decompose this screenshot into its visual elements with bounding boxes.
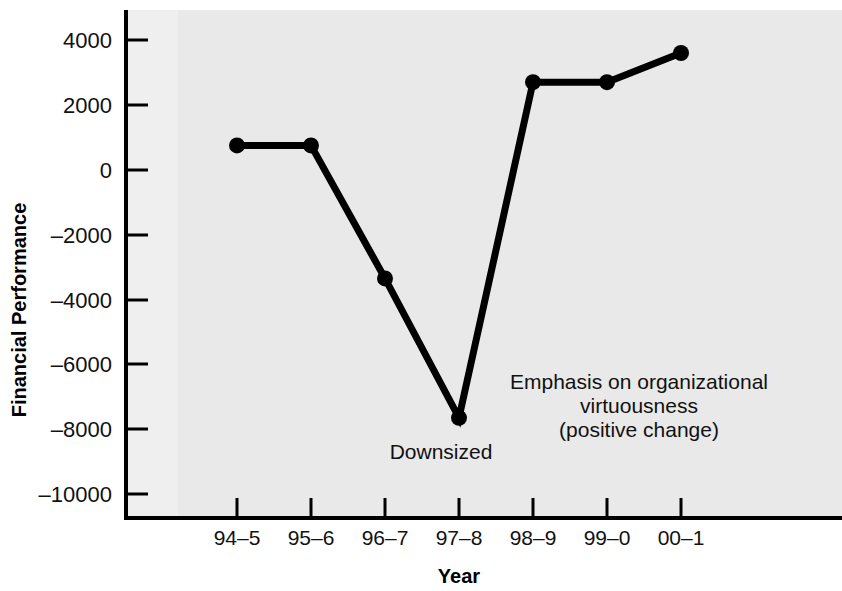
data-point-95–6 [303,137,319,153]
data-point-00–1 [673,45,689,61]
data-point-97–8 [451,410,467,426]
annotation-downsized: Downsized [390,440,493,463]
y-tick-label-0: 0 [100,158,112,183]
x-tick-label-5: 99–0 [584,526,631,549]
y-tick-label-minus2000: –2000 [51,223,112,248]
financial-performance-line-chart: 4000 2000 0 –2000 –4000 –6000 –8000 –100… [0,0,842,591]
x-tick-label-3: 97–8 [436,526,483,549]
chart-figure: 4000 2000 0 –2000 –4000 –6000 –8000 –100… [0,0,842,591]
y-tick-label-4000: 4000 [63,28,112,53]
x-tick-label-1: 95–6 [288,526,335,549]
y-axis-title: Financial Performance [8,203,30,418]
data-point-98–9 [525,74,541,90]
annotation-virtuousness-line-2: virtuousness [580,394,698,417]
y-tick-label-minus4000: –4000 [51,288,112,313]
annotation-downsized-label: Downsized [390,440,493,463]
x-tick-label-6: 00–1 [658,526,705,549]
data-point-96–7 [377,270,393,286]
x-tick-label-0: 94–5 [214,526,261,549]
y-tick-label-minus8000: –8000 [51,417,112,442]
data-point-94–5 [229,137,245,153]
y-tick-label-minus10000: –10000 [39,482,112,507]
plot-background-band [126,10,178,518]
x-tick-label-2: 96–7 [362,526,409,549]
y-tick-label-minus6000: –6000 [51,352,112,377]
annotation-virtuousness-line-3: (positive change) [559,418,719,441]
x-axis-title: Year [438,565,480,587]
data-point-99–0 [599,74,615,90]
y-tick-label-2000: 2000 [63,93,112,118]
annotation-virtuousness-line-1: Emphasis on organizational [510,370,768,393]
x-tick-label-4: 98–9 [510,526,557,549]
